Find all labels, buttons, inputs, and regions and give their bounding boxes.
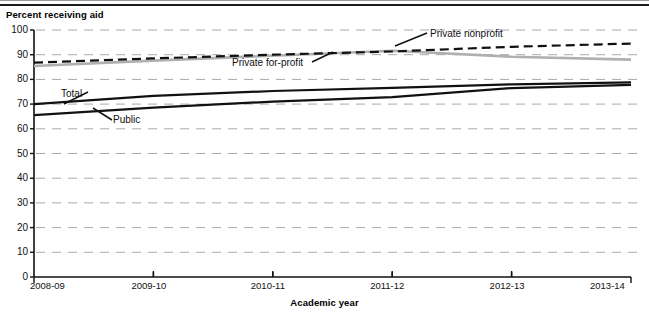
y-tick-label-0: 0 <box>0 272 28 282</box>
series-label-private-nonprofit: Private nonprofit <box>430 28 503 39</box>
x-tick-label-2011-12: 2011-12 <box>370 281 404 291</box>
x-tick-label-2010-11: 2010-11 <box>251 281 285 291</box>
x-tick-label-2009-10: 2009-10 <box>131 281 166 291</box>
y-tick-label-90: 90 <box>0 50 28 60</box>
x-tick-label-2013-14: 2013-14 <box>590 281 625 291</box>
plot-area <box>0 0 649 314</box>
x-tick-label-2012-13: 2012-13 <box>490 281 525 291</box>
chart-figure: Percent receiving aid 100908070605040302… <box>0 0 649 314</box>
y-tick-label-40: 40 <box>0 173 28 183</box>
y-tick-label-20: 20 <box>0 223 28 233</box>
y-tick-label-50: 50 <box>0 149 28 159</box>
y-tick-label-30: 30 <box>0 198 28 208</box>
series-label-total: Total <box>61 88 82 99</box>
y-tick-label-70: 70 <box>0 99 28 109</box>
series-line-total <box>34 82 631 104</box>
series-label-public: Public <box>113 114 140 125</box>
x-tick-label-2008-09: 2008-09 <box>30 281 65 291</box>
y-tick-label-100: 100 <box>0 25 28 35</box>
series-line-private-nonprofit <box>34 44 631 63</box>
y-tick-label-80: 80 <box>0 74 28 84</box>
y-tick-label-10: 10 <box>0 247 28 257</box>
leader-private-nonprofit <box>395 33 427 46</box>
series-label-private-for-profit: Private for-profit <box>232 57 303 68</box>
x-axis-caption: Academic year <box>0 297 649 308</box>
y-tick-label-60: 60 <box>0 124 28 134</box>
